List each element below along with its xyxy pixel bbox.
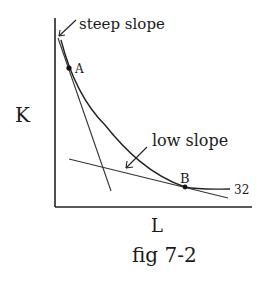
- isoquant-curve: [61, 40, 230, 189]
- steep-tangent-line: [58, 38, 111, 191]
- figure-caption: fig 7-2: [132, 243, 197, 267]
- point-b-label: B: [180, 171, 190, 186]
- point-a: [66, 65, 71, 70]
- isoquant-diagram: A B 32 steep slope low slope K L fig 7-2: [0, 0, 263, 291]
- x-axis-label: L: [151, 215, 163, 236]
- low-tangent-line: [69, 159, 228, 198]
- y-axis-label: K: [15, 103, 31, 127]
- steep-slope-label: steep slope: [79, 15, 165, 33]
- steep-arrow-shaft: [59, 20, 76, 36]
- curve-value-label: 32: [234, 183, 249, 197]
- low-slope-label: low slope: [152, 131, 228, 150]
- point-a-label: A: [74, 62, 84, 76]
